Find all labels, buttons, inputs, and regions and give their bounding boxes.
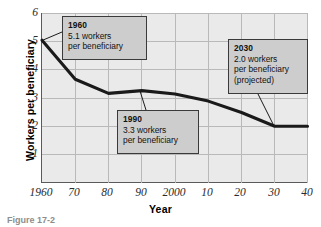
x-axis-title: Year (0, 203, 321, 215)
callout-1960-line1: 5.1 workers (68, 31, 141, 42)
callout-1960-line2: per beneficiary (68, 41, 141, 52)
callout-2030-line1: 2.0 workers (234, 54, 302, 65)
callout-2030-line2: per beneficiary (234, 64, 302, 75)
callout-2030-line3: (projected) (234, 75, 302, 86)
callout-1990-year: 1990 (123, 114, 193, 125)
callout-1960-year: 1960 (68, 20, 141, 31)
figure-container: 6 5 4 3 2 1 1960 70 80 90 2000 10 20 30 … (0, 0, 321, 227)
callout-1990: 1990 3.3 workers per beneficiary (117, 110, 199, 154)
y-axis-title: Workers per beneficiary (24, 39, 36, 161)
callout-1990-line1: 3.3 workers (123, 125, 193, 136)
callout-1990-line2: per beneficiary (123, 135, 193, 146)
figure-caption: Figure 17-2 (7, 215, 55, 225)
y-axis-title-wrapper: Workers per beneficiary (20, 15, 38, 185)
x-tick-label-2040: 40 (287, 187, 321, 199)
callout-2030-year: 2030 (234, 43, 302, 54)
callout-2030: 2030 2.0 workers per beneficiary (projec… (228, 39, 308, 94)
callout-1960: 1960 5.1 workers per beneficiary (62, 16, 147, 60)
